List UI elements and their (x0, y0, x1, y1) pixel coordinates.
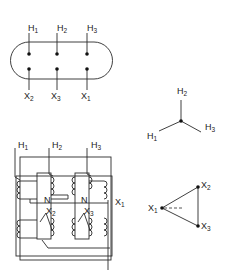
wye-arm-h1 (159, 121, 181, 131)
board-label-h1: H1 (28, 23, 39, 34)
winding-label-h1: H1 (18, 140, 29, 151)
board-label-x3: X3 (51, 91, 61, 102)
winding-label-x2: X2 (46, 206, 56, 217)
delta-side-x1-x3 (162, 208, 198, 226)
winding-label-x3: X3 (84, 206, 94, 217)
wye-label-h3: H3 (205, 122, 216, 133)
board-label-x1: X1 (81, 91, 91, 102)
neutral-label-1: N (44, 195, 51, 205)
board-label-h3: H3 (87, 23, 98, 34)
delta-label-x1: X1 (148, 203, 158, 214)
wye-label-h1: H1 (147, 131, 158, 142)
delta-label-x3: X3 (201, 221, 211, 232)
delta-x3-dot (196, 224, 200, 228)
h1-winding-lead (15, 148, 20, 180)
coil-h-winding-2 (51, 177, 68, 199)
delta-x2-dot (196, 185, 200, 189)
terminal-board-outline (11, 42, 113, 79)
h2-terminal-dot (55, 52, 59, 56)
winding-label-h2: H2 (52, 140, 63, 151)
winding-label-x1: X1 (115, 197, 125, 208)
terminal-board: H1 H2 H3 X2 X3 X1 (11, 23, 113, 102)
h3-winding-lead (87, 148, 91, 176)
delta-vector-diagram: X1 X2 X3 (148, 180, 211, 232)
winding-diagram: H1 H2 H3 N N X2 X3 X1 (15, 140, 125, 270)
outer-tank-frame (20, 157, 111, 260)
wye-label-h2: H2 (177, 86, 188, 97)
delta-side-x1-x2 (162, 187, 198, 208)
neutral-label-2: N (81, 195, 88, 205)
coil-x-winding-2 (51, 218, 75, 236)
x2-terminal-dot (27, 67, 31, 71)
h2-winding-lead (49, 148, 53, 176)
x3-terminal-dot (55, 67, 59, 71)
board-label-h2: H2 (57, 23, 68, 34)
h3-terminal-dot (85, 52, 89, 56)
bottom-bus (42, 240, 110, 248)
inner-frame (16, 176, 112, 256)
wye-arm-h3 (181, 121, 201, 132)
coil-x-winding-3 (89, 218, 107, 236)
winding-label-h3: H3 (91, 140, 102, 151)
transformer-diagram: H1 H2 H3 X2 X3 X1 H2 H1 H3 X1 X2 X3 (0, 0, 228, 273)
h1-terminal-dot (27, 52, 31, 56)
wye-vector-diagram: H2 H1 H3 (147, 86, 216, 142)
neutral-bus (30, 199, 108, 203)
wye-neutral-dot (179, 119, 183, 123)
x1-terminal-dot (85, 67, 89, 71)
board-label-x2: X2 (24, 91, 34, 102)
delta-label-x2: X2 (201, 180, 211, 191)
delta-x1-dot (160, 206, 164, 210)
